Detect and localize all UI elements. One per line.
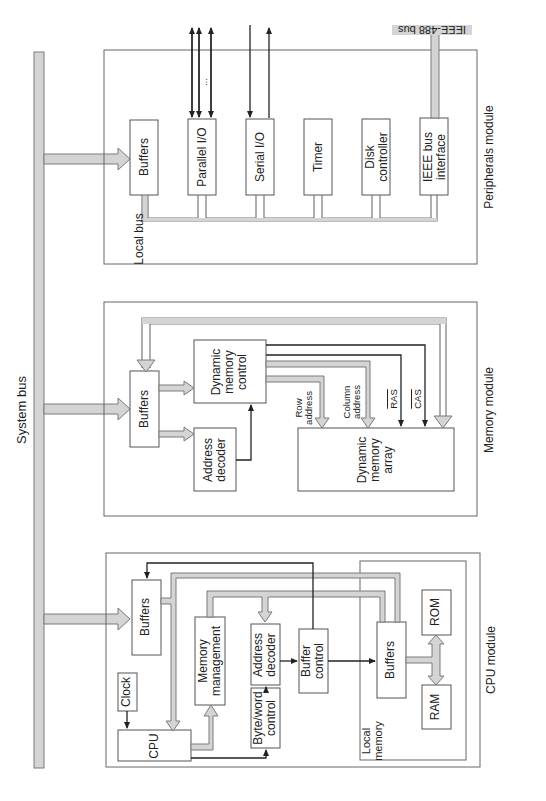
memory-module-title: Memory module [483, 367, 496, 453]
cpu-block: CPU [148, 733, 161, 758]
parallel-ellipsis: ... [200, 78, 210, 86]
disk-controller-block: Disk controller [364, 132, 390, 181]
local-bus-label: Local bus [133, 213, 146, 264]
block-diagram [0, 0, 546, 801]
rom-block: ROM [429, 598, 442, 626]
column-address-label: Column address [342, 385, 362, 419]
cpu-module [106, 553, 480, 767]
parallel-io-block: Parallel I/O [196, 127, 209, 186]
local-memory-buffers-block: Buffers [384, 641, 397, 679]
local-memory-label: Local memory [361, 721, 384, 761]
byte-word-control-block: Byte/word control [252, 691, 278, 744]
system-bus [34, 52, 130, 768]
peripherals-module-title: Peripherals module [483, 105, 496, 208]
cas-label: CAS [413, 389, 423, 409]
ras-label: RAS [389, 389, 399, 409]
memory-module [104, 302, 477, 516]
parallel-serial-lines [192, 25, 269, 118]
mem-address-decoder-block: Address decoder [202, 438, 228, 482]
memory-management-block: Memory management [197, 626, 223, 696]
periph-buffers-block: Buffers [138, 138, 151, 176]
buffer-control-block: Buffer control [300, 643, 326, 679]
ieee-bus-interface-block: IEEE bus interface [422, 132, 448, 182]
cpu-module-title: CPU module [485, 626, 498, 694]
serial-io-block: Serial I/O [254, 132, 267, 182]
dynamic-memory-control-block: Dynamic memory control [210, 349, 250, 396]
dynamic-memory-array-block: Dynamic memory array [356, 437, 396, 484]
row-address-label: Row address [294, 391, 314, 425]
system-bus-label: System bus [15, 376, 29, 444]
cpu-address-decoder-block: Address decoder [252, 633, 278, 677]
clock-block: Clock [120, 677, 133, 707]
cpu-buffers-block: Buffers [139, 598, 152, 636]
timer-block: Timer [312, 142, 325, 172]
ieee-488-bus-label: IEEE-488 bus [398, 24, 466, 36]
ram-block: RAM [429, 694, 442, 721]
mem-buffers-block: Buffers [138, 390, 151, 428]
